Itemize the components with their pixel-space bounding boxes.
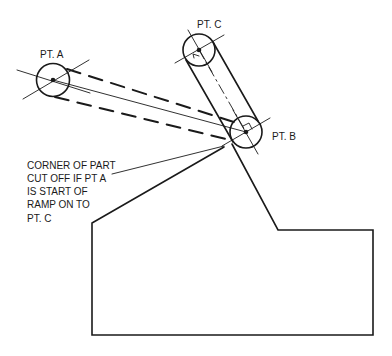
svg-text:CORNER OF PART: CORNER OF PART bbox=[27, 160, 116, 171]
svg-text:IS START OF: IS START OF bbox=[27, 186, 88, 197]
diagram-canvas: PT. A PT. B PT. C CORNER OF PART CUT OFF… bbox=[0, 0, 392, 356]
path-a-b-centerline bbox=[53, 80, 246, 132]
svg-text:CUT OFF IF PT A: CUT OFF IF PT A bbox=[27, 173, 106, 184]
path-c-b-left bbox=[186, 60, 233, 142]
note-leader-line bbox=[112, 146, 224, 174]
path-c-b-centerline bbox=[199, 50, 246, 132]
point-a-label: PT. A bbox=[40, 49, 64, 60]
point-c-label: PT. C bbox=[197, 19, 221, 30]
svg-text:PT. C: PT. C bbox=[27, 213, 51, 224]
path-a-b-lower bbox=[55, 97, 230, 140]
path-c-b-right bbox=[213, 42, 258, 121]
part-outline bbox=[92, 144, 373, 335]
path-a-b-upper bbox=[67, 69, 234, 122]
point-a-marker bbox=[17, 60, 90, 99]
corner-note: CORNER OF PART CUT OFF IF PT A IS START … bbox=[27, 160, 116, 224]
svg-text:RAMP ON TO: RAMP ON TO bbox=[27, 199, 90, 210]
point-b-label: PT. B bbox=[272, 131, 296, 142]
